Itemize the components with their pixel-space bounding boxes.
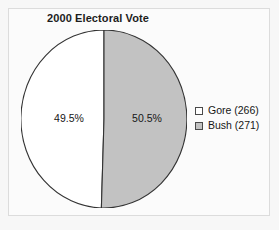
- legend-item-bush: Bush (271): [195, 118, 259, 133]
- slice-label-gore: 49.5%: [42, 112, 96, 124]
- chart-legend: Gore (266) Bush (271): [195, 103, 259, 133]
- legend-label-bush: Bush (271): [208, 120, 259, 131]
- legend-item-gore: Gore (266): [195, 103, 259, 118]
- slice-label-bush: 50.5%: [120, 112, 174, 124]
- legend-swatch-gore: [195, 107, 203, 115]
- chart-figure: 2000 Electoral Vote 49.5% 50.5% Gore (26…: [0, 0, 279, 230]
- legend-swatch-bush: [195, 122, 203, 130]
- legend-label-gore: Gore (266): [208, 105, 259, 116]
- chart-title: 2000 Electoral Vote: [8, 12, 188, 24]
